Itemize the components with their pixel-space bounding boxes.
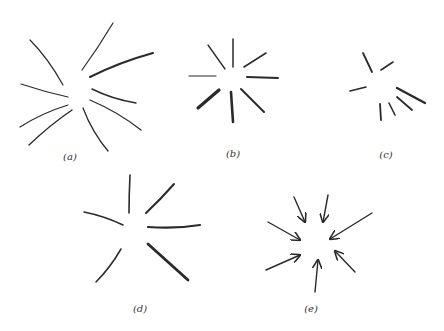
radial-stroke [350, 87, 366, 91]
radial-stroke [92, 89, 136, 103]
radial-stroke [90, 53, 153, 77]
panel-d [84, 175, 200, 282]
panel-a-label: (a) [63, 151, 77, 162]
panel-c [350, 53, 425, 120]
radial-stroke [82, 23, 113, 70]
radial-stroke [389, 103, 395, 115]
inward-arrow-icon [315, 260, 318, 292]
radial-stroke [208, 45, 225, 69]
radial-stroke [247, 77, 278, 78]
panel-c-label: (c) [379, 149, 393, 160]
radial-stroke [397, 97, 412, 110]
radial-stroke [146, 184, 174, 213]
inward-arrow-icon [268, 222, 300, 240]
inward-arrow-icon [330, 213, 372, 239]
panel-e [266, 195, 372, 292]
radial-stroke [241, 89, 264, 112]
radial-stroke [20, 105, 68, 127]
radial-stroke [380, 104, 381, 120]
panel-a [20, 23, 153, 151]
radial-stroke [30, 40, 63, 85]
radial-stroke [198, 90, 219, 108]
radial-stroke [363, 53, 372, 72]
panel-b [189, 39, 278, 122]
inward-arrow-icon [335, 251, 355, 272]
inward-arrow-icon [323, 195, 328, 222]
panel-d-label: (d) [133, 303, 147, 314]
radial-stroke [83, 108, 108, 151]
radial-stroke [148, 225, 200, 228]
inward-arrow-icon [266, 255, 300, 270]
radial-stroke [21, 84, 68, 97]
radial-stroke [148, 244, 188, 280]
radial-stroke [96, 249, 121, 282]
radial-stroke [381, 62, 393, 70]
radial-strokes-figure: (a) (b) (c) (d) (e) [0, 0, 444, 331]
panel-b-label: (b) [226, 148, 240, 159]
radial-stroke [90, 100, 141, 130]
panel-e-label: (e) [304, 303, 318, 314]
inward-arrow-icon [294, 197, 305, 222]
radial-stroke [244, 53, 266, 67]
radial-stroke [129, 175, 130, 213]
radial-stroke [84, 212, 123, 225]
radial-stroke [29, 110, 72, 145]
radial-stroke [231, 92, 233, 122]
